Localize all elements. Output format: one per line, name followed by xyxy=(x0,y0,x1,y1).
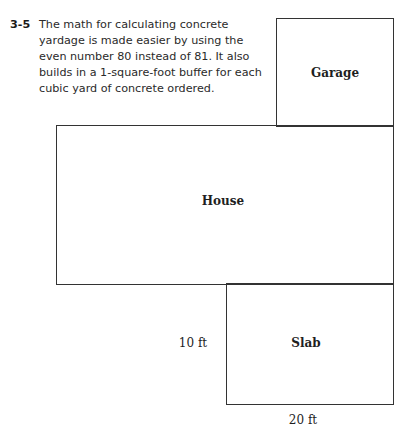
height-dimension-label: 10 ft xyxy=(179,336,207,350)
slab-label: Slab xyxy=(291,336,320,350)
garage-label: Garage xyxy=(311,66,359,80)
figure-caption: 3-5 The math for calculating concrete ya… xyxy=(10,17,265,97)
width-dimension-label: 20 ft xyxy=(289,413,317,427)
house-label: House xyxy=(202,194,244,208)
caption-text: The math for calculating concrete yardag… xyxy=(39,17,265,97)
figure-number: 3-5 xyxy=(10,17,30,33)
